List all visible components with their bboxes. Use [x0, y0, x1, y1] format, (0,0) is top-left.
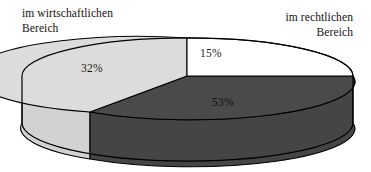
callout-label-left-line2: Bereich	[22, 21, 113, 36]
slice-value-light: 32%	[81, 62, 103, 74]
callout-label-right-line1: im rechtlichen	[286, 10, 354, 25]
callout-label-right-line2: Bereich	[286, 25, 354, 40]
slice-value-dark: 53%	[212, 96, 234, 108]
callout-label-left: im wirtschaftlichen Bereich	[22, 6, 113, 36]
pie-chart-figure: im wirtschaftlichen Bereich im rechtlich…	[0, 0, 371, 172]
callout-label-right: im rechtlichen Bereich	[286, 10, 354, 40]
slice-value-white: 15%	[200, 47, 222, 59]
callout-label-left-line1: im wirtschaftlichen	[22, 6, 113, 21]
